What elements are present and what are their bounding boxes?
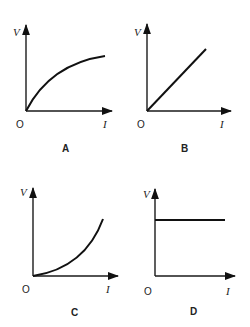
origin-label: O xyxy=(16,119,24,130)
y-axis-label: V xyxy=(13,26,21,38)
graph-c-curve xyxy=(33,219,103,276)
origin-label: O xyxy=(144,286,152,297)
graph-c: V I O C xyxy=(20,186,118,318)
graph-b-line xyxy=(147,49,206,111)
graph-b: V I O B xyxy=(134,24,231,154)
x-axis-label: I xyxy=(102,118,108,130)
graph-caption: B xyxy=(181,143,188,154)
graph-caption: A xyxy=(62,143,69,154)
origin-label: O xyxy=(137,119,145,130)
x-axis-label: I xyxy=(219,118,225,130)
vi-graphs-figure: V I O A V I O B V I O C V I O D xyxy=(0,0,250,327)
graph-a-curve xyxy=(26,56,105,111)
graph-caption: D xyxy=(190,306,197,317)
x-axis-label: I xyxy=(225,285,231,297)
graph-d: V I O D xyxy=(143,188,235,317)
y-axis-label: V xyxy=(134,26,142,38)
origin-label: O xyxy=(22,284,30,295)
y-axis-label: V xyxy=(20,186,28,198)
graph-caption: C xyxy=(71,307,78,318)
y-axis-label: V xyxy=(143,188,151,200)
x-axis-label: I xyxy=(105,283,111,295)
graph-a: V I O A xyxy=(13,25,112,154)
